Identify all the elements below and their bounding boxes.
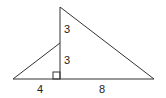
label-right-base: 8 [99,84,105,95]
triangle-figure [0,0,166,98]
label-upper-vertical: 3 [64,24,70,35]
triangle-diagram: 3 3 4 8 [0,0,166,98]
label-left-base: 4 [37,84,43,95]
label-lower-vertical: 3 [64,55,70,66]
right-hypotenuse [60,7,154,79]
right-angle-marker [53,72,60,79]
